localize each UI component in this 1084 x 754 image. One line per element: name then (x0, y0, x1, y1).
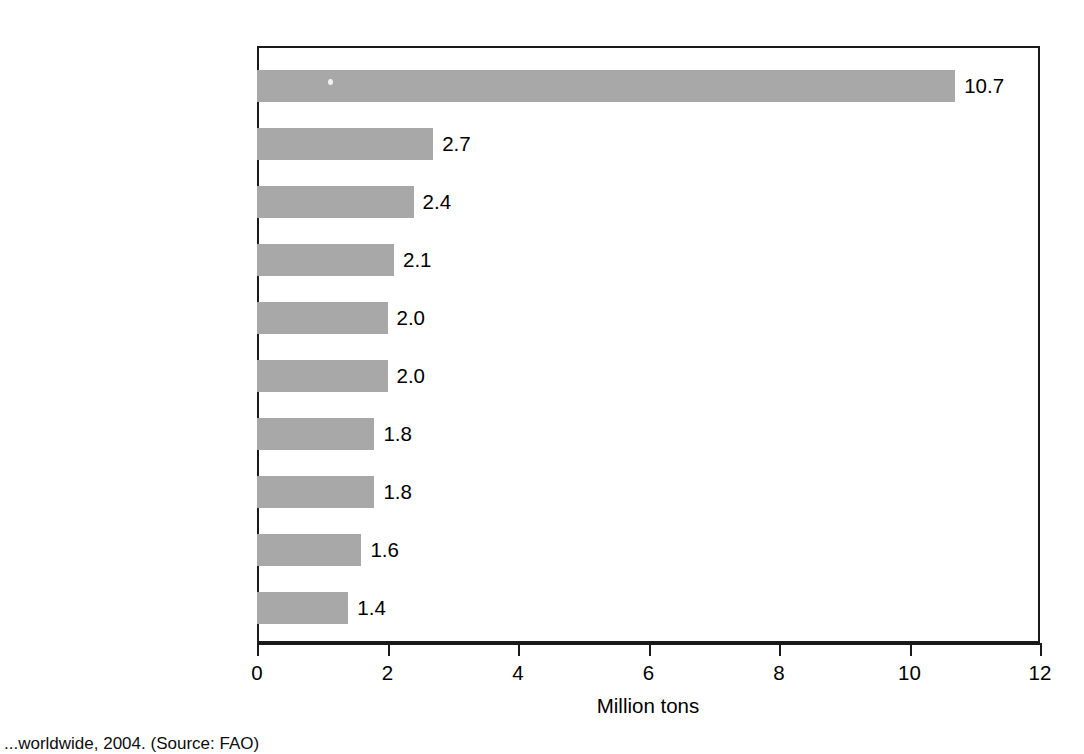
bar (257, 70, 955, 102)
bar-track: 10.7 (257, 70, 1004, 102)
bar-row: Japanese anchovy1.8 (0, 405, 1084, 463)
bar (257, 302, 388, 334)
bar (257, 476, 374, 508)
bar (257, 534, 361, 566)
bar-row: Anchoveta10.7 (0, 57, 1084, 115)
bar-row: Chub mackerel2.0 (0, 347, 1084, 405)
x-axis-tick-label: 8 (773, 661, 784, 685)
bar-value-label: 2.0 (397, 308, 426, 329)
bar-row: Largehead hairtail1.6 (0, 521, 1084, 579)
x-axis-tick-label: 4 (512, 661, 523, 685)
bar-track: 1.8 (257, 418, 412, 450)
bar-row: Blue whiting2.4 (0, 173, 1084, 231)
bar (257, 244, 394, 276)
bar-value-label: 2.4 (423, 192, 452, 213)
bar-value-label: 10.7 (964, 76, 1004, 97)
x-axis-tick (257, 643, 259, 656)
x-axis: 024681012 (257, 643, 1040, 644)
bar (257, 186, 414, 218)
bar-track: 2.1 (257, 244, 432, 276)
bar-row: Alaska pollock2.7 (0, 115, 1084, 173)
x-axis-title-text: Million tons (597, 694, 700, 718)
x-axis-tick-label: 6 (643, 661, 654, 685)
figure-caption: ...worldwide, 2004. (Source: FAO) (4, 734, 259, 754)
bar-artifact-speck (328, 79, 333, 85)
x-axis-tick-label: 12 (1029, 661, 1052, 685)
bar-row: Atlantic herring2.0 (0, 289, 1084, 347)
x-axis-tick (1040, 643, 1042, 656)
bar-value-label: 2.7 (442, 134, 471, 155)
bar-row: Chilean jack mackerel1.8 (0, 463, 1084, 521)
bar-value-label: 1.8 (383, 424, 412, 445)
x-axis-tick (388, 643, 390, 656)
bar (257, 592, 348, 624)
x-axis-tick (910, 643, 912, 656)
bar (257, 128, 433, 160)
bar-track: 2.0 (257, 302, 425, 334)
bar-value-label: 1.8 (383, 482, 412, 503)
bar-track: 1.4 (257, 592, 386, 624)
bar (257, 418, 374, 450)
bar-track: 2.4 (257, 186, 451, 218)
bar-track: 2.7 (257, 128, 471, 160)
bar-track: 2.0 (257, 360, 425, 392)
x-axis-tick (649, 643, 651, 656)
bar-value-label: 1.6 (370, 540, 399, 561)
x-axis-tick (779, 643, 781, 656)
x-axis-tick (518, 643, 520, 656)
bar-track: 1.6 (257, 534, 399, 566)
bar-track: 1.8 (257, 476, 412, 508)
bar-row: Skipjack tuna2.1 (0, 231, 1084, 289)
x-axis-tick-label: 2 (382, 661, 393, 685)
bar-row: Yellowfin tuna1.4 (0, 579, 1084, 637)
x-axis-tick-label: 10 (898, 661, 921, 685)
bar (257, 360, 388, 392)
x-axis-title: Million tons (0, 694, 1084, 718)
bar-value-label: 1.4 (357, 598, 386, 619)
bar-value-label: 2.1 (403, 250, 432, 271)
x-axis-tick-label: 0 (251, 661, 262, 685)
bar-value-label: 2.0 (397, 366, 426, 387)
